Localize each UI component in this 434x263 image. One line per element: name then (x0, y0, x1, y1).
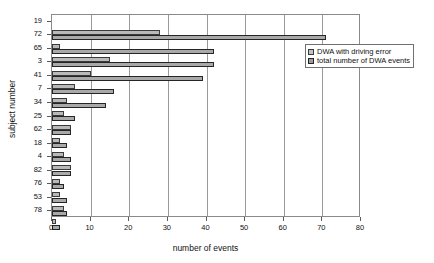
y-tick-25 (47, 116, 51, 117)
x-tick-label-20: 20 (115, 223, 141, 232)
y-tick-label-41: 41 (18, 70, 42, 79)
y-tick-label-18: 18 (18, 138, 42, 147)
x-tick-label-0: 0 (38, 223, 64, 232)
y-tick-65 (47, 48, 51, 49)
x-tick-80 (360, 217, 361, 221)
y-tick-label-19: 19 (18, 16, 42, 25)
y-tick-label-78: 78 (18, 205, 42, 214)
x-tick-0 (51, 217, 52, 221)
y-tick-label-3: 3 (18, 56, 42, 65)
legend-label-series-0: DWA with driving error (317, 47, 391, 56)
y-tick-label-72: 72 (18, 29, 42, 38)
gridline-x-50 (245, 15, 246, 216)
y-tick-3 (47, 61, 51, 62)
bar-3-series-1 (52, 76, 203, 81)
legend-entry-dwa-with-driving-error: DWA with driving error (308, 47, 410, 56)
x-tick-10 (90, 217, 91, 221)
legend-entry-total-number-of-dwa-events: total number of DWA events (308, 56, 410, 65)
bar-34-series-1 (52, 116, 75, 121)
bar-41-series-1 (52, 89, 114, 94)
x-tick-60 (283, 217, 284, 221)
y-tick-4 (47, 156, 51, 157)
bar-7-series-1 (52, 103, 106, 108)
x-tick-label-80: 80 (347, 223, 373, 232)
x-tick-50 (244, 217, 245, 221)
gridline-x-40 (207, 15, 208, 216)
gridline-x-30 (168, 15, 169, 216)
y-tick-label-4: 4 (18, 151, 42, 160)
x-tick-label-10: 10 (77, 223, 103, 232)
x-axis-title: number of events (51, 243, 360, 253)
chart-legend: DWA with driving error total number of D… (305, 44, 414, 68)
x-tick-70 (321, 217, 322, 221)
bar-25-series-1 (52, 130, 71, 135)
y-axis-title: subject number (7, 64, 17, 154)
x-tick-20 (128, 217, 129, 221)
x-tick-40 (206, 217, 207, 221)
y-tick-82 (47, 170, 51, 171)
bar-62-series-1 (52, 143, 67, 148)
y-tick-53 (47, 197, 51, 198)
y-tick-label-62: 62 (18, 124, 42, 133)
x-tick-label-60: 60 (270, 223, 296, 232)
gridline-x-20 (129, 15, 130, 216)
legend-swatch-icon-series-1 (308, 58, 314, 64)
y-tick-72 (47, 34, 51, 35)
y-tick-78 (47, 210, 51, 211)
bar-53-series-1 (52, 211, 67, 216)
y-tick-62 (47, 129, 51, 130)
y-tick-label-25: 25 (18, 111, 42, 120)
y-tick-41 (47, 75, 51, 76)
y-tick-label-65: 65 (18, 43, 42, 52)
y-tick-19 (47, 21, 51, 22)
bar-82-series-1 (52, 184, 64, 189)
y-tick-label-53: 53 (18, 192, 42, 201)
bar-19-series-1 (52, 35, 326, 40)
gridline-x-60 (284, 15, 285, 216)
bar-76-series-1 (52, 198, 67, 203)
y-tick-label-82: 82 (18, 165, 42, 174)
chart-figure: subject number number of events DWA with… (0, 0, 434, 263)
legend-swatch-icon-series-0 (308, 49, 314, 55)
x-tick-label-30: 30 (154, 223, 180, 232)
bar-72-series-1 (52, 49, 214, 54)
x-tick-label-40: 40 (193, 223, 219, 232)
bar-18-series-1 (52, 157, 71, 162)
y-tick-18 (47, 143, 51, 144)
y-tick-label-7: 7 (18, 83, 42, 92)
bar-65-series-1 (52, 62, 214, 67)
y-tick-76 (47, 183, 51, 184)
x-tick-label-50: 50 (231, 223, 257, 232)
x-tick-30 (167, 217, 168, 221)
x-tick-label-70: 70 (308, 223, 334, 232)
legend-label-series-1: total number of DWA events (317, 56, 410, 65)
y-tick-label-76: 76 (18, 178, 42, 187)
y-tick-7 (47, 88, 51, 89)
y-tick-34 (47, 102, 51, 103)
bar-4-series-1 (52, 171, 71, 176)
y-tick-label-34: 34 (18, 97, 42, 106)
gridline-x-10 (91, 15, 92, 216)
